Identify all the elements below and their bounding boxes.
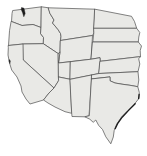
texas-upper-coast-tick [139, 95, 140, 99]
state-new-mexico [70, 75, 92, 117]
state-texas [85, 77, 140, 144]
state-south-dakota [93, 28, 140, 42]
map-canvas [0, 0, 147, 156]
western-us-map [0, 0, 147, 156]
state-north-dakota [94, 9, 137, 28]
